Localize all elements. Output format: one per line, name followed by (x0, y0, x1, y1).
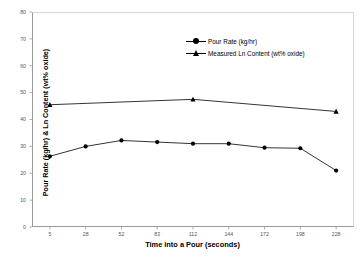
x-axis-tick-label: 228 (324, 231, 348, 237)
x-axis-tick-label: 5 (38, 231, 62, 237)
y-axis-tick-label: 30 (6, 143, 26, 149)
x-axis-title: Time into a Pour (seconds) (30, 240, 355, 249)
legend-label-ln-content: Measured Ln Content (wt% oxide) (206, 50, 305, 57)
y-axis-tick-label: 80 (6, 9, 26, 15)
chart-canvas (0, 0, 363, 257)
y-axis-tick-label: 0 (6, 224, 26, 230)
x-axis-tick-label: 83 (145, 231, 169, 237)
x-axis-tick-label: 28 (74, 231, 98, 237)
legend-item-ln-content: Measured Ln Content (wt% oxide) (186, 48, 305, 58)
circle-marker-icon (186, 36, 206, 46)
legend-item-pour-rate: Pour Rate (kg/hr) (186, 36, 305, 46)
y-axis-tick-label: 60 (6, 63, 26, 69)
chart-container: Pour Rate (kg/hr) & Ln Content (wt% oxid… (0, 0, 363, 257)
triangle-marker-icon (186, 48, 206, 58)
y-axis-title: Pour Rate (kg/hr) & Ln Content (wt% oxid… (41, 18, 50, 228)
legend-label-pour-rate: Pour Rate (kg/hr) (206, 38, 257, 45)
x-axis-tick-label: 144 (217, 231, 241, 237)
x-axis-tick-label: 198 (288, 231, 312, 237)
x-axis-tick-label: 172 (253, 231, 277, 237)
y-axis-tick-label: 50 (6, 89, 26, 95)
x-axis-tick-label: 52 (109, 231, 133, 237)
y-axis-tick-label: 20 (6, 170, 26, 176)
chart-legend: Pour Rate (kg/hr) Measured Ln Content (w… (186, 36, 305, 60)
y-axis-tick-label: 10 (6, 197, 26, 203)
y-axis-tick-label: 40 (6, 116, 26, 122)
x-axis-tick-label: 112 (181, 231, 205, 237)
y-axis-tick-label: 70 (6, 36, 26, 42)
